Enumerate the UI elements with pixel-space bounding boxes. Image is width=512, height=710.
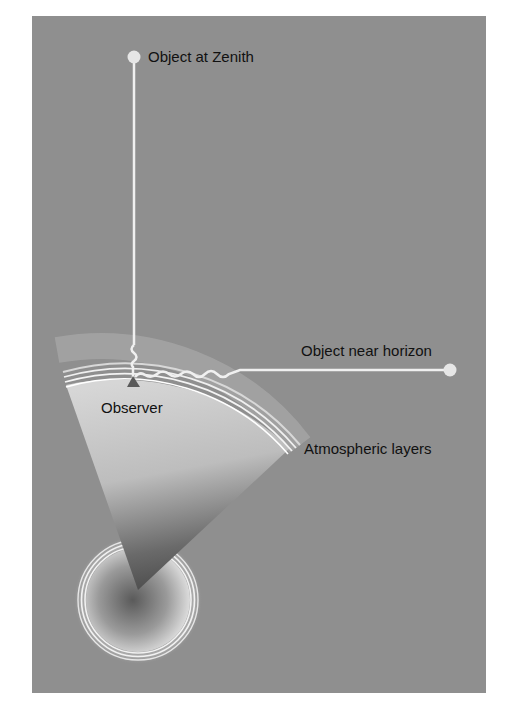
zenith-label: Object at Zenith [148,49,254,64]
zenith-ray [132,57,137,378]
atmosphere-label: Atmospheric layers [304,441,432,456]
zenith-object-icon [128,51,141,64]
refraction-diagram [0,0,512,710]
horizon-label: Object near horizon [301,343,432,358]
observer-label: Observer [101,400,163,415]
horizon-object-icon [444,364,457,377]
